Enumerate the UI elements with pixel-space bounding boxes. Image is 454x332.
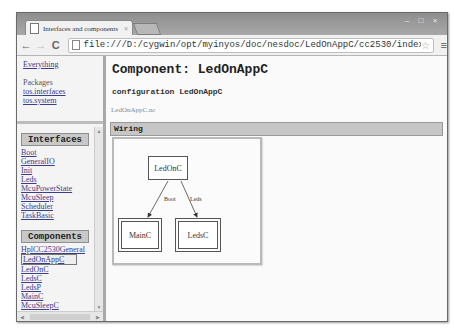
tab-close-icon[interactable]: ×	[124, 25, 128, 32]
interface-link[interactable]: TaskBasic	[21, 211, 103, 220]
interface-link[interactable]: Boot	[21, 148, 103, 157]
components-heading: Components	[21, 230, 89, 243]
everything-link[interactable]: Everything	[23, 60, 103, 69]
component-link[interactable]: McuSleepC	[21, 301, 103, 310]
window-controls: – □ ×	[401, 16, 441, 26]
configuration-line: configuration LedOnAppC	[112, 87, 443, 96]
browser-tab[interactable]: Interfaces and components ×	[25, 20, 133, 36]
sidebar-index: Interfaces Boot GeneralIO Init Leds McuP…	[17, 127, 103, 321]
new-tab-button[interactable]	[133, 23, 161, 35]
address-bar[interactable]: file:///D:/cygwin/opt/myinyos/doc/nesdoc…	[68, 38, 434, 53]
wiring-diagram: LedOnC Boot Leds MainC LedsC	[112, 137, 262, 265]
page-content: Everything Packages tos.interfaces tos.s…	[17, 56, 447, 321]
main-panel: Component: LedOnAppC configuration LedOn…	[106, 56, 447, 321]
page-title: Component: LedOnAppC	[112, 62, 443, 77]
package-link-tos-system[interactable]: tos.system	[23, 96, 103, 105]
scrollbar-thumb[interactable]	[30, 314, 90, 320]
sidebar-horizontal-scrollbar[interactable]: ◀ ▶	[17, 311, 103, 321]
component-link[interactable]: HplCC2530General	[21, 245, 103, 254]
node-ledonc[interactable]: LedOnC	[148, 156, 188, 180]
interface-link[interactable]: Init	[21, 166, 103, 175]
title-bar: Interfaces and components × – □ ×	[17, 13, 447, 35]
package-link-tos-interfaces[interactable]: tos.interfaces	[23, 87, 103, 96]
page-icon	[30, 23, 39, 34]
component-link[interactable]: LedsP	[21, 283, 103, 292]
component-link[interactable]: LedsC	[21, 274, 103, 283]
node-ledsc[interactable]: LedsC	[178, 221, 218, 249]
interface-link[interactable]: McuPowerState	[21, 184, 103, 193]
interface-link[interactable]: GeneralIO	[21, 157, 103, 166]
scroll-left-icon[interactable]: ◀	[20, 314, 24, 320]
sidebar-vertical-scrollbar[interactable]: ▲ ▼	[94, 127, 103, 311]
scroll-down-icon[interactable]: ▼	[95, 303, 103, 311]
interface-link[interactable]: Scheduler	[21, 202, 103, 211]
reload-button[interactable]: C	[50, 39, 62, 51]
packages-label: Packages	[23, 78, 103, 87]
source-filename: LedOnAppC.nc	[111, 106, 443, 114]
tab-title: Interfaces and components	[43, 25, 122, 33]
edge-label-boot: Boot	[164, 196, 176, 202]
menu-icon[interactable]: ≡	[441, 39, 447, 51]
component-link[interactable]: LedOnC	[21, 265, 103, 274]
forward-button[interactable]: →	[35, 39, 47, 51]
maximize-button[interactable]: □	[415, 16, 427, 26]
minimize-button[interactable]: –	[401, 16, 413, 26]
edge-label-leds: Leds	[190, 196, 202, 202]
scroll-up-icon[interactable]: ▲	[95, 127, 103, 135]
url-text[interactable]: file:///D:/cygwin/opt/myinyos/doc/nesdoc…	[84, 40, 421, 50]
component-link-selected[interactable]: LedOnAppC	[21, 254, 77, 265]
browser-toolbar: ← → C file:///D:/cygwin/opt/myinyos/doc/…	[17, 35, 447, 56]
close-window-button[interactable]: ×	[429, 16, 441, 26]
component-link[interactable]: MainC	[21, 292, 103, 301]
scroll-right-icon[interactable]: ▶	[96, 314, 100, 320]
bookmark-star-icon[interactable]: ☆	[421, 40, 430, 51]
node-mainc[interactable]: MainC	[121, 221, 159, 249]
interfaces-heading: Interfaces	[21, 133, 89, 146]
sidebar: Everything Packages tos.interfaces tos.s…	[17, 56, 106, 321]
page-icon	[72, 40, 80, 50]
interface-link[interactable]: Leds	[21, 175, 103, 184]
interface-link[interactable]: McuSleep	[21, 193, 103, 202]
sidebar-packages: Everything Packages tos.interfaces tos.s…	[17, 56, 103, 124]
browser-window: Interfaces and components × – □ × ← → C …	[16, 12, 448, 322]
back-button[interactable]: ←	[20, 39, 32, 51]
wiring-heading: Wiring	[110, 122, 443, 136]
